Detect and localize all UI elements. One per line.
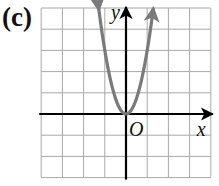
x-axis-label: x — [196, 118, 206, 140]
y-axis-label: y — [109, 1, 120, 24]
origin-label: O — [129, 118, 143, 140]
parabola-graph: y x O — [0, 0, 219, 186]
